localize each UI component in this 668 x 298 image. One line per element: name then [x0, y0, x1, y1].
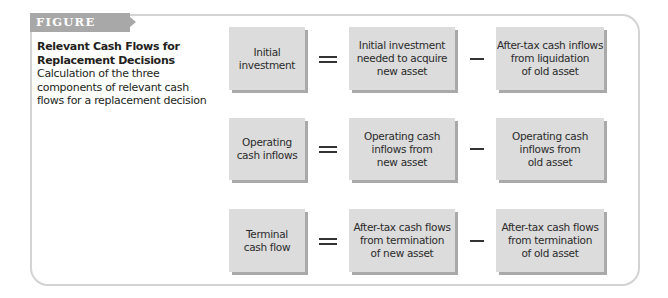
old-asset-operating-box: Operating cash inflows from old asset — [496, 118, 604, 180]
equals-sign — [319, 56, 337, 63]
equals-sign — [319, 146, 337, 153]
figure-description: Calculation of the three components of r… — [37, 67, 206, 107]
figure-caption: Relevant Cash Flows for Replacement Deci… — [37, 40, 207, 108]
new-asset-investment-box: Initial investment needed to acquire new… — [349, 27, 455, 90]
initial-investment-box: Initial investment — [229, 27, 305, 90]
minus-sign — [470, 146, 488, 152]
equals-sign — [319, 238, 337, 245]
old-asset-liquidation-box: After-tax cash inflows from liquidation … — [496, 27, 604, 90]
operating-cash-inflows-box: Operating cash inflows — [229, 118, 305, 180]
minus-sign — [470, 238, 488, 244]
minus-sign — [470, 56, 488, 62]
figure-title: Relevant Cash Flows for Replacement Deci… — [37, 40, 207, 67]
old-asset-termination-box: After-tax cash flows from termination of… — [496, 209, 604, 272]
new-asset-operating-box: Operating cash inflows from new asset — [349, 118, 455, 180]
new-asset-termination-box: After-tax cash flows from termination of… — [349, 209, 455, 272]
figure-label: FIGURE 11.2 — [30, 13, 130, 32]
terminal-cash-flow-box: Terminal cash flow — [229, 209, 305, 272]
